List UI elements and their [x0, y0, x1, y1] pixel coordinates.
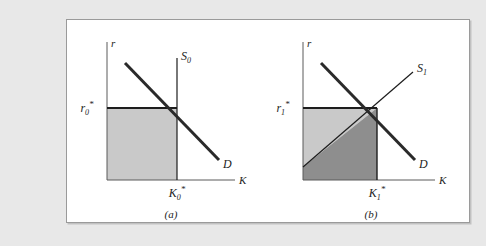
panel-caption-b: (b) — [365, 208, 378, 221]
supply-curve-label-s0: S0 — [181, 49, 191, 65]
equilibrium-quantity-label: K0* — [168, 184, 186, 202]
y-axis-label: r — [111, 37, 116, 49]
panel-b: r K S1 D r1* K1* (b) — [263, 20, 465, 224]
supply-curve-label-s1: S1 — [417, 61, 427, 77]
equilibrium-quantity-label: K1* — [368, 184, 386, 202]
x-axis-label: K — [438, 174, 447, 186]
capital-income-rectangle — [107, 108, 177, 180]
panel-a: r K S0 D r0* K0* (a) — [67, 20, 269, 224]
x-axis-label: K — [238, 174, 247, 186]
figure-frame: r K S0 D r0* K0* (a) — [66, 19, 470, 223]
equilibrium-price-label: r1* — [276, 99, 290, 117]
y-axis-label: r — [307, 37, 312, 49]
demand-curve-label: D — [418, 157, 428, 171]
panel-caption-a: (a) — [165, 208, 178, 221]
equilibrium-price-label: r0* — [80, 99, 94, 117]
demand-curve-label: D — [222, 157, 232, 171]
